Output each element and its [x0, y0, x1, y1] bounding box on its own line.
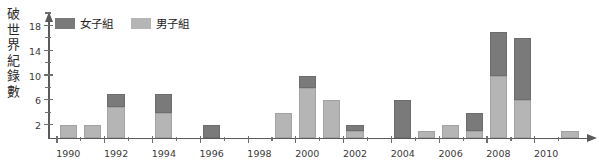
- x-tick-label: 1998: [247, 148, 271, 159]
- y-axis-arrow-icon: [45, 12, 53, 22]
- bar-column[interactable]: [203, 125, 220, 137]
- bar-segment-women[interactable]: [155, 94, 172, 113]
- x-tick: [415, 137, 416, 141]
- world-record-bar-chart: 破 世 界 紀 錄 數 女子組 男子組 26101418 19901992199…: [0, 0, 599, 167]
- y-tick-label: 2: [35, 120, 41, 131]
- bar-segment-men[interactable]: [442, 125, 459, 137]
- bar-column[interactable]: [323, 100, 340, 137]
- bar-column[interactable]: [275, 113, 292, 138]
- bar-segment-men[interactable]: [60, 125, 77, 137]
- bar-column[interactable]: [107, 94, 124, 137]
- y-tick: [44, 124, 53, 125]
- bar-segment-women[interactable]: [466, 113, 483, 132]
- x-tick: [558, 137, 559, 141]
- x-tick: [295, 136, 296, 143]
- x-tick: [343, 136, 344, 143]
- y-tick: [44, 74, 53, 75]
- y-tick-label: 6: [35, 95, 41, 106]
- x-tick: [367, 137, 368, 141]
- x-tick: [391, 136, 392, 143]
- y-tick-minor: [45, 12, 51, 13]
- bar-column[interactable]: [466, 113, 483, 138]
- y-tick-label: 10: [29, 70, 41, 81]
- bar-column[interactable]: [60, 125, 77, 137]
- bar-segment-women[interactable]: [107, 94, 124, 106]
- bar-column[interactable]: [490, 32, 507, 137]
- x-tick-label: 1990: [56, 148, 80, 159]
- y-tick-label: 18: [29, 20, 41, 31]
- bar-column[interactable]: [561, 131, 578, 137]
- x-tick: [534, 136, 535, 143]
- y-axis-title: 破 世 界 紀 錄 數: [2, 6, 24, 99]
- bar-segment-women[interactable]: [490, 32, 507, 75]
- x-tick-label: 2004: [391, 148, 415, 159]
- bar-column[interactable]: [514, 38, 531, 137]
- x-tick: [319, 137, 320, 141]
- bar-column[interactable]: [84, 125, 101, 137]
- bar-segment-women[interactable]: [346, 125, 363, 131]
- x-tick-label: 1992: [104, 148, 128, 159]
- x-tick-label: 1994: [152, 148, 176, 159]
- bar-column[interactable]: [394, 100, 411, 137]
- x-tick: [176, 137, 177, 141]
- bar-column[interactable]: [418, 131, 435, 137]
- x-tick-label: 2002: [343, 148, 367, 159]
- bar-segment-men[interactable]: [107, 107, 124, 138]
- y-tick-minor: [45, 62, 51, 63]
- bar-segment-men[interactable]: [490, 76, 507, 138]
- y-tick-label: 14: [29, 45, 41, 56]
- x-tick: [104, 136, 105, 143]
- bar-segment-men[interactable]: [561, 131, 578, 137]
- x-tick: [152, 136, 153, 143]
- bar-segment-men[interactable]: [155, 113, 172, 138]
- bar-segment-men[interactable]: [514, 100, 531, 137]
- x-tick-label: 2008: [486, 148, 510, 159]
- y-tick: [44, 50, 53, 51]
- x-tick: [224, 137, 225, 141]
- y-tick-minor: [45, 37, 51, 38]
- bar-segment-men[interactable]: [418, 131, 435, 137]
- x-tick: [510, 137, 511, 141]
- x-tick: [248, 136, 249, 143]
- x-tick: [200, 136, 201, 143]
- x-tick-label: 1996: [200, 148, 224, 159]
- x-tick: [439, 136, 440, 143]
- bar-column[interactable]: [299, 76, 316, 138]
- plot-area: 26101418 1990199219941996199820002002200…: [48, 8, 594, 139]
- bar-segment-women[interactable]: [203, 125, 220, 137]
- x-tick: [271, 137, 272, 141]
- x-axis-arrow-icon: [587, 134, 597, 142]
- x-tick-label: 2000: [295, 148, 319, 159]
- y-tick-minor: [45, 112, 51, 113]
- x-tick: [56, 136, 57, 143]
- bar-column[interactable]: [155, 94, 172, 137]
- x-tick: [80, 137, 81, 141]
- bar-segment-men[interactable]: [323, 100, 340, 137]
- bar-segment-men[interactable]: [346, 131, 363, 137]
- y-tick: [44, 25, 53, 26]
- x-tick-label: 2006: [439, 148, 463, 159]
- bar-segment-men[interactable]: [466, 131, 483, 137]
- bar-column[interactable]: [442, 125, 459, 137]
- bar-segment-men[interactable]: [84, 125, 101, 137]
- bar-column[interactable]: [346, 125, 363, 137]
- y-tick-minor: [45, 87, 51, 88]
- x-tick-label: 2010: [534, 148, 558, 159]
- x-tick: [463, 137, 464, 141]
- bar-segment-men[interactable]: [299, 88, 316, 138]
- x-tick: [128, 137, 129, 141]
- bar-segment-women[interactable]: [299, 76, 316, 88]
- x-tick: [486, 136, 487, 143]
- bar-segment-women[interactable]: [514, 38, 531, 100]
- y-tick: [44, 99, 53, 100]
- bar-segment-women[interactable]: [394, 100, 411, 137]
- y-axis-line: [48, 14, 50, 139]
- bar-segment-men[interactable]: [275, 113, 292, 138]
